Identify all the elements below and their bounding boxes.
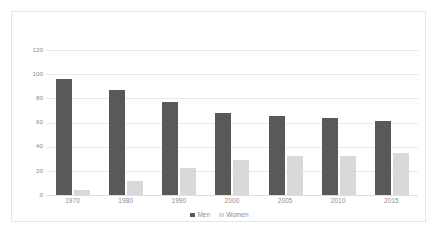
legend-label: Men xyxy=(197,212,210,218)
bar-women-2005[interactable] xyxy=(287,156,303,195)
x-tick-label-1970: 1970 xyxy=(46,198,100,204)
bar-women-1980[interactable] xyxy=(127,181,143,196)
chart-legend: MenWomen xyxy=(12,212,427,218)
gridline-0 xyxy=(46,195,418,196)
bar-men-2000[interactable] xyxy=(215,113,231,195)
bar-women-2010[interactable] xyxy=(340,156,356,195)
bar-group-1980 xyxy=(99,50,152,195)
x-tick-label-2000: 2000 xyxy=(205,198,259,204)
chart-container: 020406080100120 197019801990200020052010… xyxy=(11,11,426,222)
y-tick-label: 120 xyxy=(17,47,43,53)
bar-group-2010 xyxy=(312,50,365,195)
y-tick-label: 20 xyxy=(17,168,43,174)
legend-item-women[interactable]: Women xyxy=(219,212,248,218)
bar-men-1970[interactable] xyxy=(56,79,72,195)
bar-women-1990[interactable] xyxy=(180,168,196,195)
x-tick-label-2015: 2015 xyxy=(364,198,418,204)
y-tick-label: 40 xyxy=(17,143,43,149)
bar-group-2005 xyxy=(259,50,312,195)
bar-women-2000[interactable] xyxy=(233,160,249,195)
legend-item-men[interactable]: Men xyxy=(190,212,210,218)
x-tick-label-1980: 1980 xyxy=(99,198,153,204)
y-tick-label: 60 xyxy=(17,119,43,125)
y-tick-label: 0 xyxy=(17,192,43,198)
bar-group-1970 xyxy=(46,50,99,195)
bar-women-2015[interactable] xyxy=(393,153,409,195)
x-axis: 1970198019902000200520102015 xyxy=(46,198,418,210)
bars-layer xyxy=(46,50,418,195)
legend-swatch-icon xyxy=(190,213,195,218)
bar-men-1990[interactable] xyxy=(162,102,178,195)
bar-men-2015[interactable] xyxy=(375,121,391,195)
bar-men-1980[interactable] xyxy=(109,90,125,195)
legend-label: Women xyxy=(226,212,248,218)
bar-men-2010[interactable] xyxy=(322,118,338,195)
bar-women-1970[interactable] xyxy=(74,190,90,195)
x-tick-label-2005: 2005 xyxy=(258,198,312,204)
y-axis: 020406080100120 xyxy=(12,50,43,195)
legend-swatch-icon xyxy=(219,213,224,218)
x-tick-label-2010: 2010 xyxy=(311,198,365,204)
bar-group-2015 xyxy=(365,50,418,195)
x-tick-label-1990: 1990 xyxy=(152,198,206,204)
bar-group-2000 xyxy=(205,50,258,195)
y-tick-label: 100 xyxy=(17,71,43,77)
y-tick-label: 80 xyxy=(17,95,43,101)
bar-men-2005[interactable] xyxy=(269,116,285,195)
bar-group-1990 xyxy=(152,50,205,195)
